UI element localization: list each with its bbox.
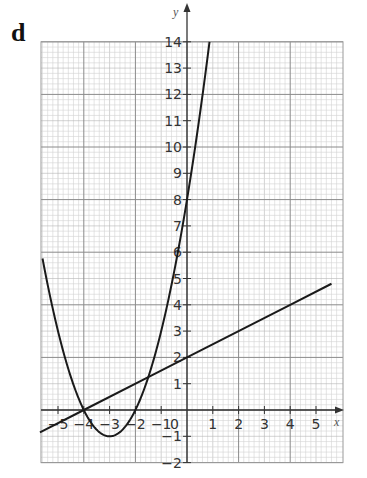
y-tick-label: 10 bbox=[164, 139, 182, 155]
y-tick-label: 13 bbox=[164, 60, 182, 76]
x-tick-label: 2 bbox=[234, 416, 243, 432]
y-axis-arrow-icon bbox=[184, 3, 191, 12]
x-tick-label: 1 bbox=[208, 416, 217, 432]
y-tick-label: 8 bbox=[173, 192, 182, 208]
y-tick-label: −2 bbox=[161, 455, 182, 471]
y-tick-label: 12 bbox=[164, 86, 182, 102]
y-tick-label: 9 bbox=[173, 165, 182, 181]
axes: xy bbox=[41, 3, 344, 463]
parabola-curve bbox=[43, 42, 210, 437]
x-tick-label: 3 bbox=[260, 416, 269, 432]
x-axis-label: x bbox=[333, 415, 340, 429]
x-tick-label: −3 bbox=[99, 416, 120, 432]
y-tick-label: 11 bbox=[164, 113, 182, 129]
x-tick-label: 4 bbox=[286, 416, 295, 432]
x-tick-label: 5 bbox=[312, 416, 321, 432]
y-tick-label: 1 bbox=[173, 376, 182, 392]
y-tick-label: 3 bbox=[173, 323, 182, 339]
chart: xy −5−4−3−2−1012345−2−112345678910111213… bbox=[0, 0, 367, 478]
y-tick-label: 14 bbox=[164, 34, 182, 50]
y-tick-label: −1 bbox=[161, 428, 182, 444]
y-axis-label: y bbox=[172, 5, 179, 19]
y-tick-label: 4 bbox=[173, 297, 182, 313]
